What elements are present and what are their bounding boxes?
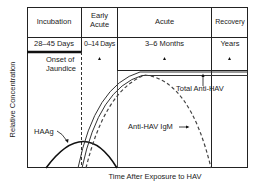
- phase-incubation: Incubation: [27, 18, 81, 27]
- y-axis-label: Relative Concentration: [8, 50, 17, 150]
- phase-recovery: Recovery: [212, 18, 248, 27]
- duration-early-acute: 0–14 Days: [81, 40, 118, 49]
- duration-acute: 3–6 Months: [118, 40, 211, 49]
- total-anti-hav-label: Total Anti-HAV: [176, 84, 224, 93]
- onset-of-jaundice-label: Onset of Jaundice: [46, 55, 80, 73]
- haag-label: HAAg: [34, 127, 54, 136]
- duration-incubation: 28–45 Days: [27, 40, 81, 49]
- anti-hav-igm-label: Anti-HAV IgM: [128, 122, 173, 131]
- phase-acute: Acute: [118, 18, 211, 27]
- duration-recovery: Years: [212, 40, 248, 49]
- x-axis-label: Time After Exposure to HAV: [80, 172, 230, 181]
- diagram-lines: [0, 0, 258, 186]
- phase-early-acute: Early Acute: [82, 12, 117, 29]
